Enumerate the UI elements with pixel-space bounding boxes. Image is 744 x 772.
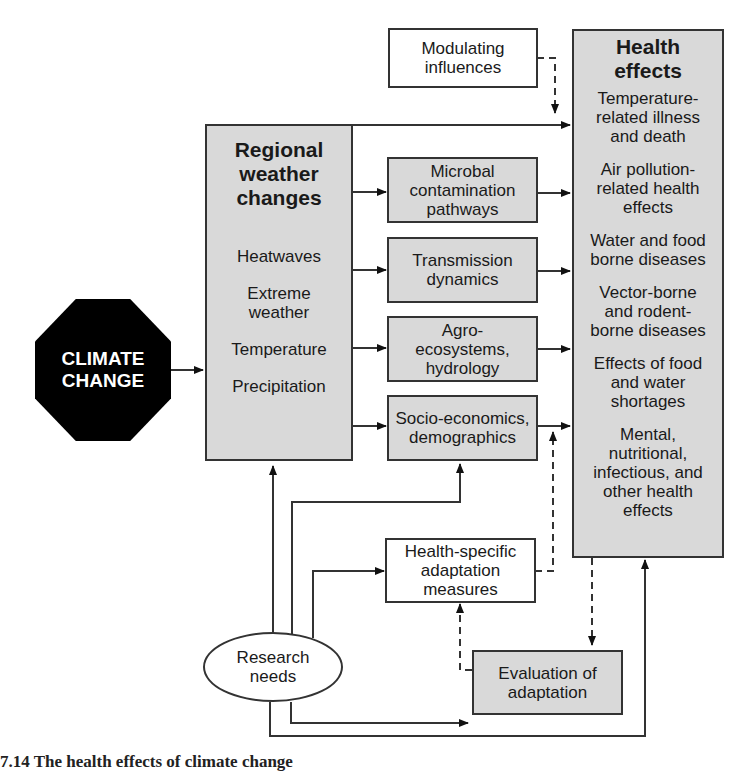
pathway-line: hydrology (426, 359, 500, 378)
health-item-line: and death (596, 127, 700, 146)
regional-title-line: Regional (235, 138, 324, 162)
figure-caption: 7.14 The health effects of climate chang… (0, 752, 293, 772)
modulating-influences-box: Modulating influences (388, 28, 538, 88)
health-item-line: Vector-borne (590, 283, 705, 302)
health-item-line: other health (593, 482, 703, 501)
pathway-line: ecosystems, (415, 340, 509, 359)
adaptation-line: adaptation (421, 561, 500, 580)
health-item-line: Water and food (590, 231, 706, 250)
health-item-line: infectious, and (593, 463, 703, 482)
pathway-socio-economics: Socio-economics, demographics (387, 395, 538, 461)
health-item-water-food: Water and food borne diseases (590, 231, 706, 269)
modulating-line: Modulating (421, 39, 504, 58)
climate-change-label-line2: CHANGE (62, 370, 144, 392)
research-line: needs (250, 667, 296, 686)
regional-item-temperature: Temperature (231, 340, 326, 359)
health-item-line: Mental, (593, 425, 703, 444)
health-item-air-pollution: Air pollution- related health effects (596, 160, 699, 217)
health-item-line: and rodent- (590, 302, 705, 321)
health-item-line: borne diseases (590, 250, 706, 269)
health-item-line: related illness (596, 108, 700, 127)
regional-weather-title: Regional weather changes (235, 138, 324, 210)
pathway-line: Transmission (412, 251, 512, 270)
regional-item-line: weather (247, 303, 310, 322)
adaptation-line: measures (423, 580, 498, 599)
health-effects-box: Health effects Temperature- related illn… (572, 29, 724, 558)
evaluation-line: adaptation (508, 683, 587, 702)
health-item-line: effects (593, 501, 703, 520)
health-item-line: Effects of food (594, 354, 702, 373)
modulating-line: influences (425, 58, 502, 77)
health-item-line: nutritional, (593, 444, 703, 463)
pathway-microbal: Microbal contamination pathways (387, 157, 538, 223)
pathway-line: demographics (409, 428, 516, 447)
health-item-temperature: Temperature- related illness and death (596, 89, 700, 146)
pathway-line: pathways (427, 200, 499, 219)
evaluation-line: Evaluation of (498, 664, 596, 683)
health-title-line: Health (614, 35, 682, 59)
pathway-line: Agro- (442, 321, 484, 340)
pathway-line: Socio-economics, (395, 409, 529, 428)
research-line: Research (237, 648, 310, 667)
research-needs-node: Research needs (203, 632, 343, 702)
pathway-agro: Agro- ecosystems, hydrology (387, 316, 538, 382)
regional-item-line: Temperature (231, 340, 326, 359)
regional-item-line: Heatwaves (237, 247, 321, 266)
health-effects-title: Health effects (614, 35, 682, 83)
health-item-line: Air pollution- (596, 160, 699, 179)
regional-item-heatwaves: Heatwaves (237, 247, 321, 266)
pathway-line: dynamics (427, 270, 499, 289)
health-item-vector-borne: Vector-borne and rodent- borne diseases (590, 283, 705, 340)
health-item-line: borne diseases (590, 321, 705, 340)
regional-item-extreme-weather: Extreme weather (247, 284, 310, 322)
regional-weather-box: Regional weather changes Heatwaves Extre… (205, 124, 353, 461)
health-item-shortages: Effects of food and water shortages (594, 354, 702, 411)
health-item-line: shortages (594, 392, 702, 411)
health-title-line: effects (614, 59, 682, 83)
adaptation-measures-box: Health-specific adaptation measures (385, 538, 536, 603)
evaluation-box: Evaluation of adaptation (472, 650, 623, 715)
health-item-other: Mental, nutritional, infectious, and oth… (593, 425, 703, 520)
pathway-line: Microbal (430, 162, 494, 181)
regional-title-line: weather (235, 162, 324, 186)
climate-change-label-line1: CLIMATE (61, 348, 144, 370)
health-item-line: Temperature- (596, 89, 700, 108)
health-item-line: and water (594, 373, 702, 392)
regional-item-line: Extreme (247, 284, 310, 303)
pathway-line: contamination (410, 181, 516, 200)
adaptation-line: Health-specific (405, 542, 517, 561)
regional-item-line: Precipitation (232, 377, 326, 396)
pathway-transmission: Transmission dynamics (387, 237, 538, 303)
regional-item-precipitation: Precipitation (232, 377, 326, 396)
health-item-line: effects (596, 198, 699, 217)
health-item-line: related health (596, 179, 699, 198)
regional-title-line: changes (235, 186, 324, 210)
